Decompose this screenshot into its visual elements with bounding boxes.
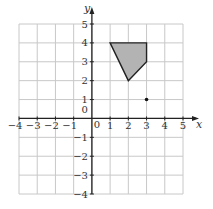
y-tick-label: 5	[82, 19, 88, 30]
grid-lines	[19, 24, 183, 194]
x-tick-label: −1	[62, 120, 77, 131]
y-tick-label: −4	[73, 189, 88, 200]
origin-label: 0	[94, 119, 100, 130]
y-tick-label: 3	[82, 56, 88, 67]
plotted-point	[145, 98, 149, 102]
y-tick-label: 1	[82, 94, 88, 105]
x-axis-label: x	[196, 118, 203, 131]
x-tick-label: 2	[125, 120, 131, 131]
origin-label: 0	[82, 104, 88, 115]
x-tick-label: 1	[107, 120, 113, 131]
x-tick-label: −3	[26, 120, 41, 131]
x-tick-label: 5	[180, 120, 186, 131]
x-tick-label: 3	[143, 120, 149, 131]
x-tick-label: −4	[8, 120, 23, 131]
y-axis-label: y	[83, 2, 91, 15]
y-tick-label: 4	[82, 37, 88, 48]
x-tick-label: −2	[44, 120, 59, 131]
axes	[19, 7, 199, 194]
y-tick-label: −2	[73, 151, 88, 162]
x-tick-label: 4	[162, 120, 168, 131]
y-tick-label: −3	[73, 170, 88, 181]
y-tick-label: 2	[82, 75, 88, 86]
y-tick-label: −1	[73, 132, 88, 143]
tick-labels: −4−3−2−112345−4−3−2−11234500	[8, 19, 187, 200]
coordinate-grid: −4−3−2−112345−4−3−2−11234500 x y	[0, 0, 213, 209]
